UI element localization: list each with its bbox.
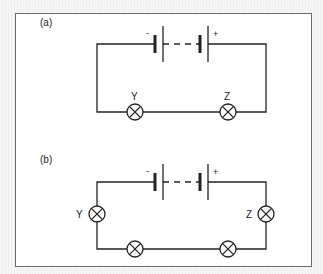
panel-b-lamp-bottom-left-icon <box>127 241 143 257</box>
panel-b: (b) - + Y Z <box>40 154 274 257</box>
panel-a-negative-sign: - <box>146 28 149 38</box>
panel-b-lamp-z-label: Z <box>246 209 252 220</box>
panel-a-positive-sign: + <box>213 29 218 39</box>
panel-b-lamp-y-icon <box>89 206 105 222</box>
panel-a-battery <box>155 26 208 62</box>
panel-b-label: (b) <box>40 154 52 165</box>
panel-b-negative-sign: - <box>146 166 149 176</box>
panel-a-lamp-z-icon <box>220 104 236 120</box>
panel-a-lamp-y-label: Y <box>131 91 138 102</box>
panel-a-lamp-z-label: Z <box>224 91 230 102</box>
panel-a: (a) - + Y Z <box>40 17 266 120</box>
panel-b-wires <box>97 182 266 249</box>
panel-b-lamp-y-label: Y <box>76 209 83 220</box>
panel-b-battery <box>155 164 208 200</box>
panel-b-lamp-z-icon <box>258 206 274 222</box>
panel-a-wires <box>97 44 266 112</box>
panel-b-positive-sign: + <box>213 167 218 177</box>
circuit-diagram: (a) - + Y Z (b) <box>0 0 323 274</box>
panel-b-lamp-bottom-right-icon <box>220 241 236 257</box>
panel-a-lamp-y-icon <box>127 104 143 120</box>
panel-a-label: (a) <box>40 17 52 28</box>
